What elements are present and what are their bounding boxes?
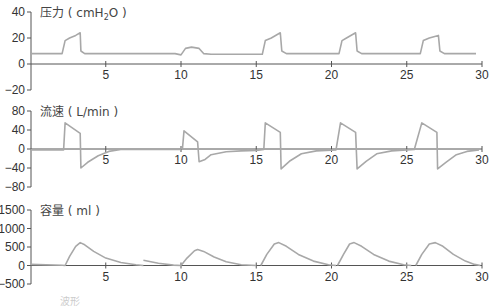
y-tick-label: 80 — [12, 104, 26, 118]
x-tick-label: 10 — [174, 153, 188, 167]
x-tick-label: 5 — [102, 68, 109, 82]
x-tick-label: 20 — [325, 270, 339, 284]
y-tick-label: 0 — [18, 142, 25, 156]
y-tick-label: 500 — [5, 240, 25, 254]
volume-trace — [31, 243, 144, 266]
x-tick-label: 5 — [102, 270, 109, 284]
y-tick-label: 0 — [18, 259, 25, 273]
x-tick-label: 20 — [325, 153, 339, 167]
caption-fragment: 波形 — [60, 293, 80, 308]
pressure-trace — [31, 33, 477, 55]
panel-title: 压力 ( cmH2O ) — [40, 6, 127, 22]
y-tick-label: 40 — [12, 123, 26, 137]
volume-trace — [143, 260, 181, 265]
x-tick-label: 10 — [174, 68, 188, 82]
volume-trace — [338, 243, 412, 266]
x-tick-label: 5 — [102, 153, 109, 167]
x-tick-label: 25 — [400, 68, 414, 82]
y-tick-label: 0 — [18, 57, 25, 71]
pressure-panel: 40200−2051015202530压力 ( cmH2O ) — [5, 5, 489, 97]
panel-title: 容量 ( ml ) — [40, 203, 100, 218]
y-tick-label: 1500 — [0, 203, 25, 217]
x-tick-label: 30 — [475, 270, 489, 284]
volume-trace — [261, 243, 336, 266]
y-tick-label: −40 — [5, 161, 26, 175]
panel-title: 流速 ( L/min ) — [40, 105, 118, 119]
y-tick-label: −80 — [5, 180, 26, 194]
x-tick-label: 30 — [475, 153, 489, 167]
x-tick-label: 25 — [400, 153, 414, 167]
x-tick-label: 15 — [250, 153, 264, 167]
flow-panel: 80400−40−8051015202530流速 ( L/min ) — [5, 104, 489, 194]
y-tick-label: 40 — [12, 5, 26, 19]
y-tick-label: 1000 — [0, 222, 25, 236]
volume-trace — [181, 250, 256, 266]
y-tick-label: −20 — [5, 83, 26, 97]
volume-panel: 150010005000−50051015202530容量 ( ml ) — [0, 203, 489, 291]
y-tick-label: 20 — [12, 31, 26, 45]
volume-trace — [416, 243, 481, 266]
x-tick-label: 15 — [250, 68, 264, 82]
x-tick-label: 30 — [475, 68, 489, 82]
x-tick-label: 10 — [174, 270, 188, 284]
y-tick-label: −500 — [0, 277, 25, 291]
x-tick-label: 25 — [400, 270, 414, 284]
x-tick-label: 15 — [250, 270, 264, 284]
x-tick-label: 20 — [325, 68, 339, 82]
